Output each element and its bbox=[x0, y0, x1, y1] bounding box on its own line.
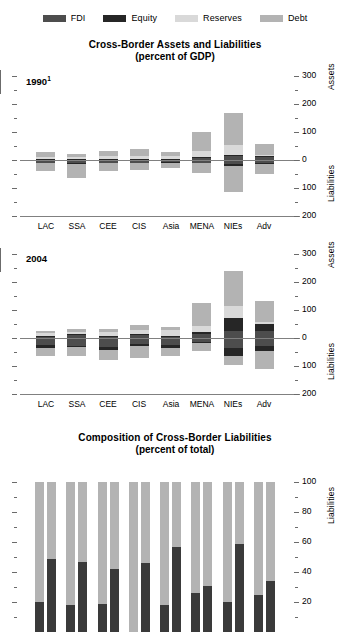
y-tick-minor bbox=[295, 352, 298, 353]
bar-segment-equity-fdi bbox=[266, 581, 275, 632]
y-tick-label: 0 bbox=[302, 155, 307, 164]
bar-segment-equity-fdi bbox=[47, 559, 56, 632]
bar-segment-debt-liabilities bbox=[99, 163, 118, 171]
y-tick-major-left bbox=[12, 104, 17, 105]
bar-segment-equity-fdi bbox=[98, 604, 107, 632]
y-tick-minor bbox=[295, 174, 298, 175]
y-tick-minor-left bbox=[14, 90, 17, 91]
bar-segment-debt bbox=[223, 482, 232, 602]
chart3-subtitle: (percent of total) bbox=[0, 444, 350, 456]
y-tick-major-left bbox=[12, 338, 17, 339]
bar-segment-reserves-assets bbox=[130, 156, 149, 159]
bar-asia-2004 bbox=[172, 482, 181, 632]
y-tick-minor-left bbox=[14, 324, 17, 325]
y-tick-minor bbox=[295, 324, 298, 325]
x-axis-label-adv: Adv bbox=[242, 222, 286, 231]
bar-segment-debt-liabilities bbox=[161, 348, 180, 356]
bar-segment-equity-fdi bbox=[254, 595, 263, 632]
x-axis-line bbox=[20, 216, 300, 217]
bar-segment-debt bbox=[78, 482, 87, 562]
bar-cis-1990 bbox=[129, 482, 138, 632]
bar-segment-equity-fdi bbox=[223, 602, 232, 632]
bar-segment-debt-assets bbox=[130, 149, 149, 156]
bar-segment-debt bbox=[203, 482, 212, 586]
x-tick bbox=[0, 269, 1, 272]
bar-mena bbox=[192, 76, 211, 216]
bar-segment-equity-fdi bbox=[191, 593, 200, 632]
bar-segment-debt-liabilities bbox=[36, 348, 55, 357]
bar-segment-fdi-liabilities bbox=[255, 338, 274, 346]
y-tick-minor bbox=[295, 557, 298, 558]
bar-ssa-2004 bbox=[78, 482, 87, 632]
y-tick-major bbox=[294, 76, 299, 77]
y-tick-label: 0 bbox=[302, 333, 307, 342]
bar-segment-reserves-assets bbox=[99, 332, 118, 335]
bar-mena-1990 bbox=[191, 482, 200, 632]
bar-segment-debt bbox=[235, 482, 244, 544]
y-tick-minor bbox=[295, 296, 298, 297]
legend-swatch-reserves bbox=[175, 15, 198, 22]
y-tick-minor-left bbox=[14, 352, 17, 353]
y-tick-major-left bbox=[12, 572, 17, 573]
y-tick-label: 300 bbox=[302, 71, 316, 80]
x-axis-label-adv: Adv bbox=[242, 400, 286, 409]
bar-lac bbox=[36, 76, 55, 216]
bar-segment-fdi-liabilities bbox=[36, 338, 55, 345]
bar-mena bbox=[192, 254, 211, 394]
bar-segment-debt bbox=[266, 482, 275, 581]
bar-segment-equity-fdi bbox=[78, 562, 87, 632]
y-tick-label: 100 bbox=[302, 127, 316, 136]
bar-lac-2004 bbox=[47, 482, 56, 632]
y-tick-major-left bbox=[12, 512, 17, 513]
bar-segment-debt-liabilities bbox=[255, 164, 274, 174]
bar-lac bbox=[36, 254, 55, 394]
bar-segment-equity-fdi bbox=[203, 586, 212, 632]
legend-item-equity: Equity bbox=[103, 14, 157, 23]
y-tick-major bbox=[294, 254, 299, 255]
y-tick-minor-left bbox=[14, 174, 17, 175]
y-tick-major bbox=[294, 104, 299, 105]
bar-segment-debt bbox=[35, 482, 44, 602]
bar-segment-equity-fdi bbox=[35, 602, 44, 632]
y-tick-major-left bbox=[12, 394, 17, 395]
y-tick-major bbox=[294, 482, 299, 483]
bar-segment-equity-fdi bbox=[110, 569, 119, 632]
bar-ssa bbox=[67, 76, 86, 216]
bar-segment-equity-fdi bbox=[141, 563, 150, 632]
bar-segment-equity-assets bbox=[224, 155, 243, 156]
bar-segment-debt bbox=[160, 482, 169, 605]
legend-item-reserves: Reserves bbox=[175, 14, 242, 23]
bar-segment-debt-assets bbox=[161, 327, 180, 331]
bar-segment-debt-liabilities bbox=[130, 163, 149, 170]
bar-segment-debt-assets bbox=[36, 152, 55, 156]
bar-segment-debt-assets bbox=[224, 113, 243, 145]
bar-segment-equity-assets bbox=[161, 336, 180, 337]
y-tick-minor bbox=[295, 587, 298, 588]
y-tick-minor bbox=[295, 380, 298, 381]
bar-asia-1990 bbox=[160, 482, 169, 632]
bar-cis bbox=[130, 76, 149, 216]
bar-segment-equity-assets bbox=[36, 336, 55, 337]
bar-cee bbox=[99, 254, 118, 394]
bar-nies bbox=[224, 76, 243, 216]
y-tick-major-left bbox=[12, 76, 17, 77]
bar-segment-reserves-assets bbox=[36, 333, 55, 336]
x-axis-line bbox=[20, 394, 300, 395]
y-tick-major bbox=[294, 572, 299, 573]
bar-segment-debt bbox=[47, 482, 56, 559]
bar-segment-fdi-assets bbox=[255, 331, 274, 338]
bar-segment-debt-liabilities bbox=[130, 346, 149, 358]
chart-legend: FDIEquityReservesDebt bbox=[0, 10, 350, 26]
bar-segment-equity-assets bbox=[192, 157, 211, 158]
bar-segment-fdi-liabilities bbox=[161, 338, 180, 345]
legend-swatch-fdi bbox=[43, 15, 66, 22]
chart-panel-2004: 2004 2001000100200300LACSSACEECISAsiaMEN… bbox=[0, 248, 350, 413]
bar-segment-debt-assets bbox=[130, 325, 149, 331]
bar-segment-equity-assets bbox=[255, 324, 274, 331]
y-tick-minor bbox=[295, 268, 298, 269]
bar-segment-debt-liabilities bbox=[67, 347, 86, 356]
bar-ssa-1990 bbox=[66, 482, 75, 632]
bar-segment-reserves-assets bbox=[255, 322, 274, 324]
y-tick-minor bbox=[295, 90, 298, 91]
